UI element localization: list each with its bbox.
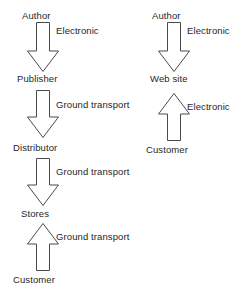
node-label-publisher: Publisher (17, 73, 58, 84)
node-label-author-right: Author (152, 10, 181, 21)
node-label-web-site: Web site (150, 73, 188, 84)
edge-label-distributor-to-stores: Ground transport (56, 166, 129, 177)
node-label-distributor: Distributor (13, 142, 57, 153)
edge-label-author-to-website: Electronic (187, 25, 230, 36)
edge-label-author-to-publisher: Electronic (56, 25, 99, 36)
arrow-customer-to-stores-up (27, 223, 59, 271)
edge-label-publisher-to-distributor: Ground transport (56, 99, 129, 110)
edge-label-customer-to-website: Electronic (187, 101, 230, 112)
arrow-publisher-to-distributor-down (27, 90, 59, 138)
arrow-author-to-publisher-down (27, 22, 59, 72)
node-label-customer-left: Customer (13, 274, 55, 285)
arrow-distributor-to-stores-down (27, 158, 59, 206)
arrow-customer-to-website-up (158, 93, 190, 141)
node-label-stores: Stores (21, 208, 49, 219)
node-label-customer-right: Customer (146, 144, 188, 155)
node-label-author-left: Author (22, 10, 51, 21)
arrow-author-to-website-down (158, 22, 190, 72)
flow-diagram: Author Electronic Publisher Ground trans… (0, 0, 241, 297)
edge-label-customer-to-stores: Ground transport (56, 231, 129, 242)
